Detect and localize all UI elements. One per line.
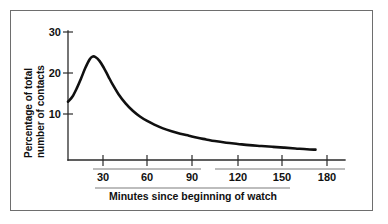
chart-figure: Percentage of total number of contacts 3… bbox=[0, 0, 388, 224]
x-axis-title: Minutes since beginning of watch bbox=[109, 190, 277, 202]
y-axis-title: Percentage of total number of contacts bbox=[23, 65, 46, 158]
y-axis-title-line2: number of contacts bbox=[35, 65, 46, 158]
line-chart: Percentage of total number of contacts 3… bbox=[0, 0, 388, 224]
y-tick-label-30: 30 bbox=[49, 26, 61, 38]
y-axis-title-line1: Percentage of total bbox=[23, 68, 34, 158]
x-tick-label-180: 180 bbox=[318, 171, 336, 183]
x-tick-label-30: 30 bbox=[97, 171, 109, 183]
data-series-line bbox=[68, 56, 315, 149]
x-tick-label-90: 90 bbox=[186, 171, 198, 183]
x-tick-label-120: 120 bbox=[229, 171, 247, 183]
y-tick-label-10: 10 bbox=[49, 108, 61, 120]
x-tick-label-150: 150 bbox=[273, 171, 291, 183]
x-tick-label-60: 60 bbox=[141, 171, 153, 183]
y-tick-label-20: 20 bbox=[49, 67, 61, 79]
